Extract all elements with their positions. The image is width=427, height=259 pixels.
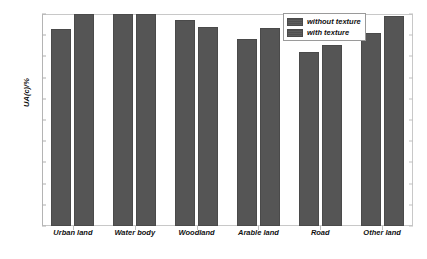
legend-swatch-icon (287, 18, 303, 26)
y-axis-tick-mark-right (409, 162, 413, 163)
x-axis-labels: Urban landWater bodyWoodlandArable landR… (42, 228, 413, 248)
y-axis-tick-mark (42, 183, 46, 184)
bar-group (113, 14, 156, 226)
bar-group (361, 14, 404, 226)
y-axis-tick-mark-right (409, 141, 413, 142)
y-axis-tick-mark (42, 141, 46, 142)
bar[interactable] (361, 33, 381, 226)
y-axis-tick-mark-right (409, 226, 413, 227)
bar-group (175, 14, 218, 226)
bar[interactable] (198, 27, 218, 226)
bar[interactable] (74, 14, 94, 226)
bar[interactable] (322, 45, 342, 226)
bar[interactable] (136, 14, 156, 226)
y-axis-tick-mark (42, 204, 46, 205)
y-axis-tick-mark-right (409, 77, 413, 78)
legend-label: with texture (307, 28, 349, 37)
legend-box: without texture with texture (283, 13, 366, 41)
bar[interactable] (175, 20, 195, 226)
bar[interactable] (384, 16, 404, 226)
legend-label: without texture (307, 17, 361, 26)
legend-item-with-texture[interactable]: with texture (287, 27, 361, 38)
x-axis-tick-mark (73, 226, 74, 230)
bar-group (237, 14, 280, 226)
legend-swatch-icon (287, 29, 303, 37)
figure-canvas: UA(c)/% 1009080706050403020100 Urban lan… (0, 0, 427, 259)
y-axis-tick-mark-right (409, 204, 413, 205)
y-axis-tick-mark (42, 120, 46, 121)
y-axis-tick-mark-right (409, 14, 413, 15)
bar-group (51, 14, 94, 226)
x-axis-tick-mark (320, 226, 321, 230)
y-axis-tick-mark (42, 56, 46, 57)
y-axis-tick-mark-right (409, 56, 413, 57)
x-axis-tick-mark (135, 226, 136, 230)
y-axis-tick-mark (42, 35, 46, 36)
y-axis-tick-mark-right (409, 98, 413, 99)
y-axis-tick-mark-right (409, 183, 413, 184)
x-axis-tick-mark (382, 226, 383, 230)
bars-layer (42, 14, 413, 226)
x-axis-tick-mark (258, 226, 259, 230)
y-axis-tick-mark (42, 226, 46, 227)
bar[interactable] (299, 52, 319, 226)
legend-item-without-texture[interactable]: without texture (287, 16, 361, 27)
y-axis-tick-mark (42, 14, 46, 15)
x-axis-tick-mark (197, 226, 198, 230)
bar[interactable] (113, 14, 133, 226)
y-axis-tick-mark (42, 98, 46, 99)
y-axis-tick-mark (42, 77, 46, 78)
y-axis-ticks: 1009080706050403020100 (0, 0, 42, 259)
bar[interactable] (51, 29, 71, 226)
bar[interactable] (260, 28, 280, 226)
y-axis-tick-mark (42, 162, 46, 163)
bar[interactable] (237, 39, 257, 226)
y-axis-tick-mark-right (409, 35, 413, 36)
y-axis-tick-mark-right (409, 120, 413, 121)
bar-group (299, 14, 342, 226)
